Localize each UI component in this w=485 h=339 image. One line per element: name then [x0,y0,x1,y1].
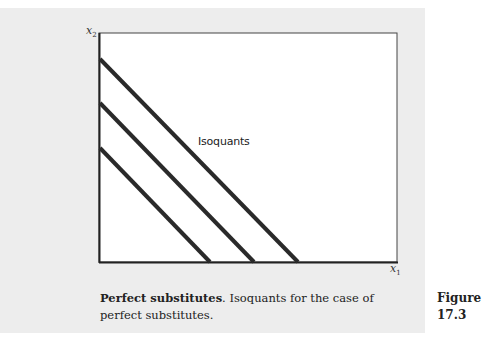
isoquants-annotation: Isoquants [198,135,250,148]
figure-number: Figure 17.3 [437,290,481,324]
figure-page: x2 x1 Isoquants Perfect substitutes. Iso… [0,0,485,339]
y-axis-label: x2 [86,24,97,39]
isoquant-chart [0,0,485,339]
figure-word: Figure [437,290,481,307]
figure-number-value: 17.3 [437,307,481,324]
x-axis-label: x1 [390,262,401,277]
figure-caption: Perfect substitutes. Isoquants for the c… [100,290,410,324]
caption-title: Perfect substitutes [100,291,222,305]
